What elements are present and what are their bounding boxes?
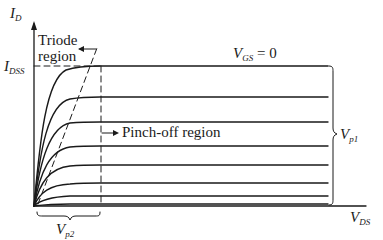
triode-arrow-icon: [78, 46, 84, 52]
curve-4: [34, 146, 328, 206]
pinchoff-region-label: Pinch-off region: [122, 125, 220, 140]
y-axis-label: ID: [10, 6, 22, 23]
pinchoff-arrow-icon: [113, 130, 119, 136]
vp2-label: Vp2: [56, 222, 74, 239]
triode-region-label: Triode region: [38, 32, 77, 64]
triode-label-line1: Triode: [38, 32, 77, 48]
curve-6: [34, 183, 328, 206]
pinchoff-locus-line: [38, 48, 97, 204]
curve-5: [34, 165, 328, 206]
idss-label: IDSS: [4, 59, 25, 76]
curve-2: [34, 97, 328, 206]
vp1-label: Vp1: [340, 127, 358, 144]
y-axis-arrow-icon: [31, 21, 37, 30]
x-axis-label: VDS: [350, 210, 370, 227]
vp1-brace: [329, 66, 337, 205]
vp2-brace: [37, 212, 100, 220]
triode-label-line2: region: [38, 48, 77, 64]
vgs-curve-label: VGS = 0: [233, 46, 277, 63]
